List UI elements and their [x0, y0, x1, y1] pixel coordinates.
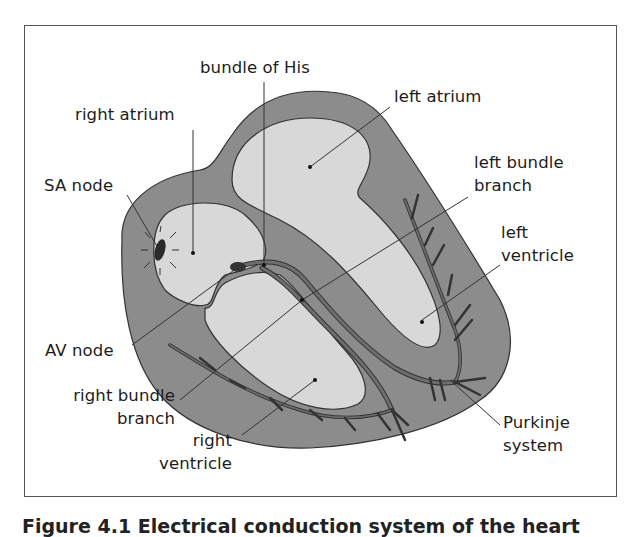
label-purkinje-2: system	[503, 435, 563, 457]
label-right-atrium: right atrium	[75, 104, 175, 126]
label-sa-node: SA node	[44, 175, 113, 197]
label-av-node: AV node	[45, 340, 114, 362]
label-left-atrium: left atrium	[394, 86, 482, 108]
label-left-ventricle-2: ventricle	[501, 245, 574, 267]
label-left-bundle-branch-1: left bundle	[474, 152, 564, 174]
label-left-ventricle-1: left	[501, 222, 528, 244]
label-right-ventricle-1: right	[140, 430, 232, 452]
av-node	[230, 262, 246, 272]
label-right-bundle-branch-2: branch	[55, 408, 175, 430]
label-purkinje-1: Purkinje	[503, 412, 570, 434]
label-right-bundle-branch-1: right bundle	[55, 385, 175, 407]
label-bundle-of-his: bundle of His	[200, 57, 310, 79]
label-left-bundle-branch-2: branch	[474, 175, 532, 197]
label-right-ventricle-2: ventricle	[140, 453, 232, 475]
figure-caption: Figure 4.1 Electrical conduction system …	[22, 515, 580, 537]
